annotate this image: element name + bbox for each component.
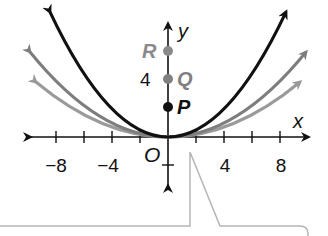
x-tick-label-neg4: −4: [97, 155, 119, 176]
origin-label: O: [144, 143, 160, 166]
labeled-points: [163, 46, 173, 112]
y-tick-label-4: 4: [140, 69, 151, 90]
x-axis-label: x: [292, 110, 304, 132]
point-label-p: P: [177, 96, 191, 118]
point-label-q: Q: [177, 68, 193, 90]
coordinate-graph: R Q P 4 y x O −8 −4 4 8: [0, 0, 328, 236]
x-tick-label-4: 4: [220, 155, 231, 176]
y-axis-label: y: [176, 20, 189, 42]
x-tick-label-neg8: −8: [45, 155, 67, 176]
point-r: [163, 46, 173, 56]
point-q: [163, 74, 173, 84]
point-p: [163, 102, 173, 112]
point-label-r: R: [142, 40, 157, 62]
x-tick-label-8: 8: [276, 155, 287, 176]
